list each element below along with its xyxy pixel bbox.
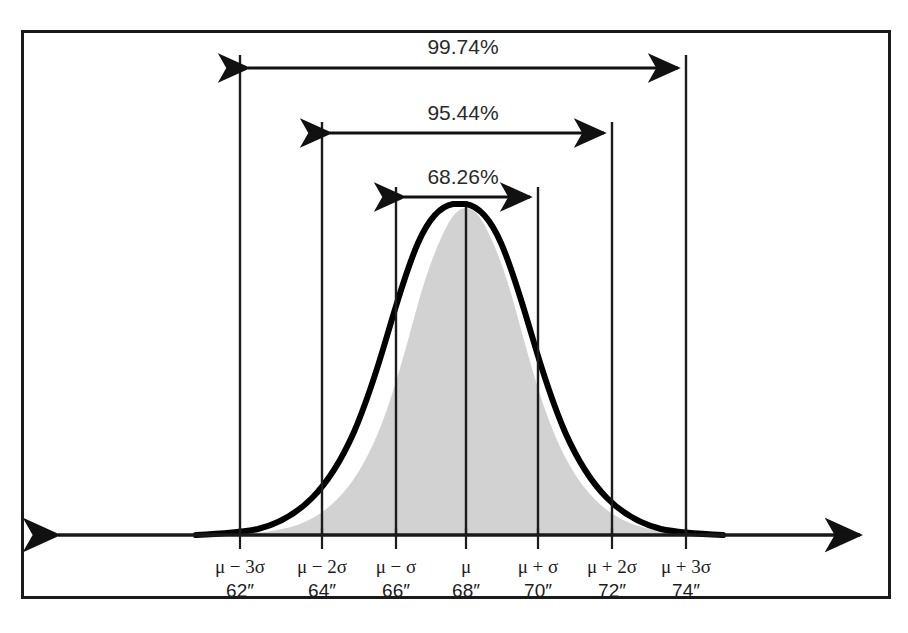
axis-label-inches-4: 70″ [524, 580, 552, 601]
axis-label-inches-5: 72″ [598, 580, 626, 601]
distribution-diagram-svg: 99.74% 95.44% 68.26% μ − 3σ μ − 2σ μ − σ… [0, 0, 908, 633]
axis-label-inches-2: 66″ [382, 580, 410, 601]
axis-label-sigma-5: μ + 2σ [587, 556, 637, 577]
axis-label-inches-6: 74″ [672, 580, 700, 601]
axis-label-inches-0: 62″ [226, 580, 254, 601]
axis-label-sigma-3: μ [461, 556, 471, 577]
span-label-99-74: 99.74% [427, 35, 498, 58]
span-label-68-26: 68.26% [427, 165, 498, 188]
axis-label-inches-1: 64″ [308, 580, 336, 601]
axis-label-sigma-4: μ + σ [518, 556, 559, 577]
axis-sigma-labels: μ − 3σ μ − 2σ μ − σ μ μ + σ μ + 2σ μ + 3… [215, 556, 711, 577]
axis-label-sigma-0: μ − 3σ [215, 556, 265, 577]
axis-label-sigma-6: μ + 3σ [661, 556, 711, 577]
span-label-95-44: 95.44% [427, 101, 498, 124]
axis-label-sigma-1: μ − 2σ [297, 556, 347, 577]
axis-label-inches-3: 68″ [452, 580, 480, 601]
normal-distribution-figure: 99.74% 95.44% 68.26% μ − 3σ μ − 2σ μ − σ… [0, 0, 908, 633]
axis-label-sigma-2: μ − σ [376, 556, 417, 577]
